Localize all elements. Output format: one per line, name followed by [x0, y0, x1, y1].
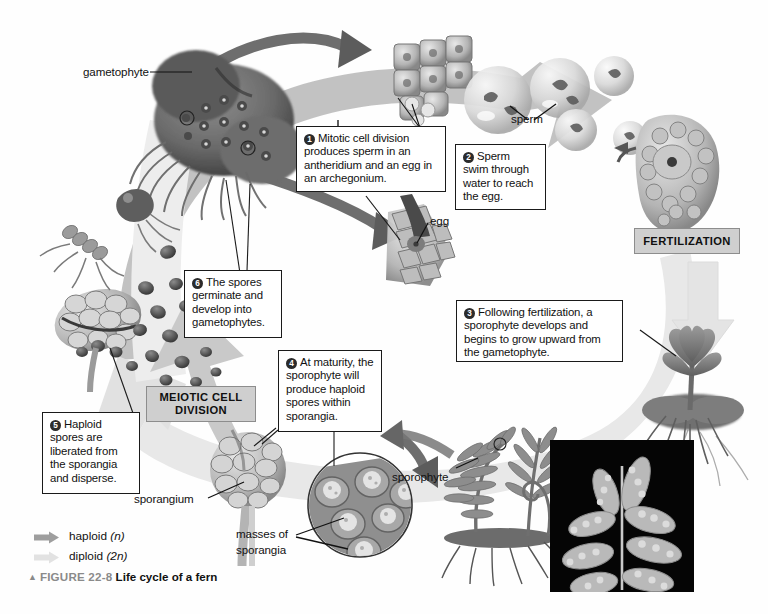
callout-step-2: 2Sperm swim through water to reach the e…	[455, 144, 546, 210]
step-number-1: 1	[304, 134, 315, 145]
figure-caption: ▲FIGURE 22-8 Life cycle of a fern	[28, 570, 217, 583]
callout-step-3: 3Following fertilization, a sporophyte d…	[456, 300, 623, 362]
legend-item-diploid: diploid (2n)	[34, 547, 127, 565]
legend-haploid-symbol: (n)	[110, 529, 124, 543]
label-sporophyte: sporophyte	[392, 470, 448, 483]
step-number-2: 2	[463, 152, 474, 163]
callout-step-4: 4At maturity, the sporophyte will produc…	[278, 350, 382, 432]
label-masses-of-sporangia-line1: masses of	[236, 527, 288, 540]
label-sporangium: sporangium	[134, 492, 194, 505]
meiosis-line-1: MEIOTIC CELL	[159, 391, 242, 404]
meiotic-cell-division-label: MEIOTIC CELL DIVISION	[146, 386, 256, 422]
legend-label-diploid: diploid (2n)	[69, 549, 127, 563]
fertilization-label: FERTILIZATION	[634, 228, 740, 254]
callout-text-3: Following fertilization, a sporophyte de…	[464, 306, 601, 358]
antheridium	[394, 36, 472, 126]
step-number-3: 3	[464, 308, 475, 319]
callout-text-1: Mitotic cell division produces sperm in …	[304, 132, 432, 184]
figure-title: Life cycle of a fern	[116, 570, 218, 583]
step-number-4: 4	[286, 358, 297, 369]
legend: haploid (n) diploid (2n)	[34, 527, 127, 567]
callout-step-6: 6The spores germinate and develop into g…	[184, 270, 282, 338]
figure-number: FIGURE 22-8	[40, 570, 112, 583]
step-number-6: 6	[192, 278, 203, 289]
archegonium	[386, 194, 455, 286]
label-egg: egg	[430, 214, 449, 227]
haploid-arrow-icon	[34, 530, 60, 543]
callout-step-5: 5Haploid spores are liberated from the s…	[42, 412, 140, 494]
diploid-arrow-icon	[34, 550, 60, 563]
callout-step-1: 1Mitotic cell division produces sperm in…	[296, 126, 446, 192]
legend-diploid-symbol: (2n)	[106, 549, 127, 563]
legend-label-haploid: haploid (n)	[69, 529, 125, 543]
figure-canvas: FERTILIZATION MEIOTIC CELL DIVISION 1Mit…	[0, 0, 768, 614]
fern-sori-photograph	[550, 440, 694, 592]
callout-text-4: At maturity, the sporophyte will produce…	[286, 356, 373, 422]
step-number-5: 5	[50, 420, 61, 431]
label-sperm: sperm	[511, 112, 543, 125]
legend-item-haploid: haploid (n)	[34, 527, 127, 545]
legend-diploid-text: diploid	[69, 549, 106, 563]
legend-haploid-text: haploid	[69, 529, 110, 543]
meiosis-line-2: DIVISION	[175, 404, 227, 417]
label-gametophyte: gametophyte	[83, 65, 149, 78]
label-masses-of-sporangia-line2: sporangia	[236, 543, 286, 556]
caption-triangle-icon: ▲	[28, 572, 37, 582]
